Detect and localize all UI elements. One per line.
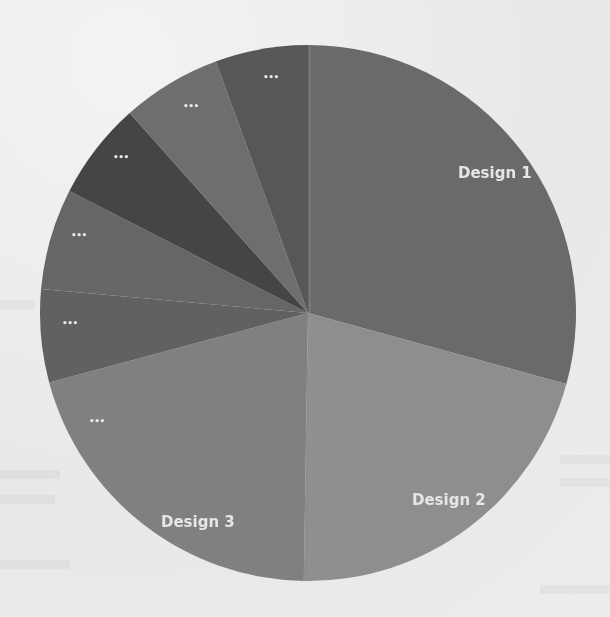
slice-label-ellipsis: •••: [263, 72, 279, 82]
slice-label-ellipsis: •••: [62, 318, 78, 328]
slice-label-design-2: Design 2: [412, 491, 486, 509]
slice-label-ellipsis: •••: [89, 416, 105, 426]
slice-label-design-3: Design 3: [161, 513, 235, 531]
pie-chart: Design 1Design 2Design 3••••••••••••••••…: [0, 0, 610, 617]
slice-label-ellipsis: •••: [71, 230, 87, 240]
slice-label-design-1: Design 1: [458, 164, 532, 182]
slice-label-ellipsis: •••: [183, 101, 199, 111]
pie-slices: [40, 45, 576, 581]
slice-label-ellipsis: •••: [113, 152, 129, 162]
